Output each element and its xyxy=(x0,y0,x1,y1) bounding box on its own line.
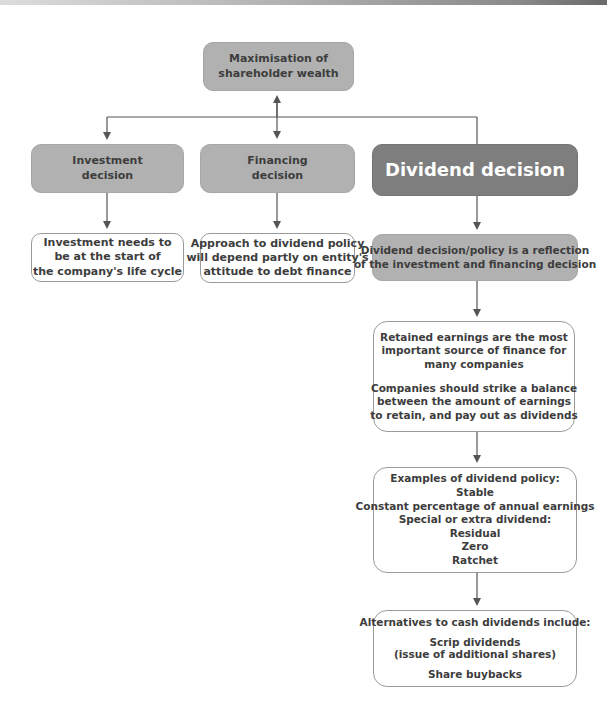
example-item: Constant percentage of annual earnings xyxy=(356,500,595,514)
alternative-group-scrip: Scrip dividends (issue of additional sha… xyxy=(394,637,556,659)
dividend-policy-examples-box: Examples of dividend policy: Stable Cons… xyxy=(373,467,577,573)
investment-decision-line-2: decision xyxy=(82,169,133,183)
example-item: Stable xyxy=(456,486,494,500)
alternative-item: Share buybacks xyxy=(428,668,522,682)
example-item: Residual xyxy=(450,527,501,541)
financing-decision-box: Financing decision xyxy=(200,144,355,193)
financing-detail-box: Approach to dividend policy will depend … xyxy=(200,233,355,283)
root-line-1: Maximisation of xyxy=(229,52,328,66)
example-item: Ratchet xyxy=(452,554,498,568)
retained-p2-line-2: between the amount of earnings xyxy=(377,395,571,409)
financing-detail-line-1: Approach to dividend policy xyxy=(191,237,365,251)
alternative-item: (issue of additional shares) xyxy=(394,649,556,660)
retained-p1-line-1: Retained earnings are the most xyxy=(380,331,568,345)
reflection-line-1: Dividend decision/policy is a reflection xyxy=(361,244,590,258)
root-line-2: shareholder wealth xyxy=(218,67,338,81)
retained-earnings-box: Retained earnings are the most important… xyxy=(373,321,575,432)
investment-detail-line-3: the company's life cycle xyxy=(33,265,182,279)
alternatives-heading: Alternatives to cash dividends include: xyxy=(360,616,591,630)
financing-decision-line-2: decision xyxy=(252,169,303,183)
dividend-reflection-box: Dividend decision/policy is a reflection… xyxy=(372,234,578,281)
investment-detail-line-1: Investment needs to xyxy=(43,236,171,250)
financing-detail-line-3: attitude to debt finance xyxy=(203,265,351,279)
retained-p1-line-2: important source of finance for xyxy=(381,344,566,358)
dividend-decision-box: Dividend decision xyxy=(372,144,578,196)
retained-p1-line-3: many companies xyxy=(424,358,523,372)
retained-p2-line-3: to retain, and pay out as dividends xyxy=(370,409,577,423)
investment-decision-line-1: Investment xyxy=(72,154,142,168)
examples-heading: Examples of dividend policy: xyxy=(390,472,560,486)
alternatives-to-cash-dividends-box: Alternatives to cash dividends include: … xyxy=(373,610,577,687)
dividend-decision-label: Dividend decision xyxy=(385,158,565,181)
financing-decision-line-1: Financing xyxy=(247,154,307,168)
investment-decision-box: Investment decision xyxy=(31,144,184,193)
example-item: Special or extra dividend: xyxy=(399,513,552,527)
alternative-item: Scrip dividends xyxy=(429,637,520,648)
retained-p2-line-1: Companies should strike a balance xyxy=(371,382,577,396)
example-item: Zero xyxy=(461,540,488,554)
root-box-maximisation-of-shareholder-wealth: Maximisation of shareholder wealth xyxy=(203,42,354,91)
reflection-line-2: of the investment and financing decision xyxy=(354,258,596,272)
investment-detail-box: Investment needs to be at the start of t… xyxy=(31,233,184,282)
financing-detail-line-2: will depend partly on entity's xyxy=(186,251,368,265)
investment-detail-line-2: be at the start of xyxy=(54,250,160,264)
